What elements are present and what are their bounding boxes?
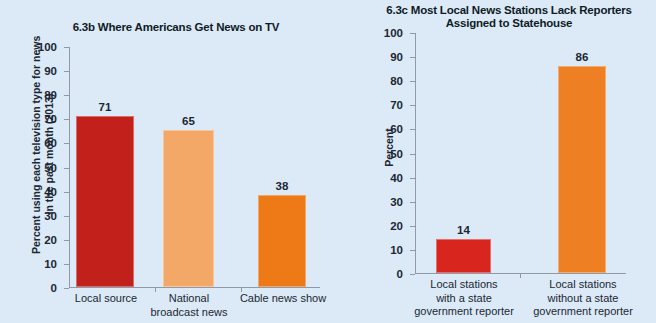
- plot-area-6-3b: Percent using each television type for n…: [69, 47, 320, 288]
- y-tick-0: 0: [64, 288, 69, 289]
- y-tick-c-70: 70: [410, 105, 415, 106]
- y-axis-line-6-3c: [415, 33, 416, 274]
- y-tick-c-0: 0: [410, 274, 415, 275]
- chart-title-6-3c-line-2: Assigned to Statehouse: [446, 17, 573, 29]
- bar-value-without-state-government-reporter: 86: [576, 51, 589, 63]
- y-tick-label-c-100: 100: [384, 27, 403, 39]
- y-tick-c-20: 20: [410, 226, 415, 227]
- y-tick-10: 10: [64, 264, 69, 265]
- y-tick-label-90: 90: [44, 65, 57, 77]
- chart-panel-6-3c: 6.3c Most Local News Stations Lack Repor…: [356, 0, 656, 323]
- bar-with-state-government-reporter[interactable]: 14 Local stations with a state governmen…: [436, 239, 491, 273]
- y-tick-50: 50: [64, 168, 69, 169]
- y-tick-c-60: 60: [410, 129, 415, 130]
- y-tick-90: 90: [64, 71, 69, 72]
- y-tick-label-60: 60: [44, 137, 57, 149]
- chart-title-6-3c: 6.3c Most Local News Stations Lack Repor…: [384, 4, 634, 30]
- y-tick-c-80: 80: [410, 81, 415, 82]
- y-tick-c-10: 10: [410, 250, 415, 251]
- y-tick-label-80: 80: [44, 89, 57, 101]
- y-tick-20: 20: [64, 240, 69, 241]
- y-tick-label-20: 20: [44, 234, 57, 246]
- y-tick-40: 40: [64, 192, 69, 193]
- y-tick-c-30: 30: [410, 202, 415, 203]
- chart-panel-6-3b: 6.3b Where Americans Get News on TV Perc…: [0, 0, 356, 323]
- y-tick-label-c-30: 30: [390, 196, 403, 208]
- x-category-label-cable-news-show: Cable news show: [226, 292, 341, 306]
- y-tick-label-c-40: 40: [390, 172, 403, 184]
- bar-cable-news-show[interactable]: 38 Cable news show: [258, 195, 306, 287]
- y-tick-label-c-80: 80: [390, 75, 403, 87]
- y-tick-label-100: 100: [38, 41, 57, 53]
- y-tick-label-30: 30: [44, 210, 57, 222]
- x-category-label-without-state-government-reporter: Local stations without a state governmen…: [516, 278, 651, 319]
- y-axis-label-6-3b: Percent using each television type for n…: [30, 54, 56, 254]
- x-category-label-with-state-government-reporter: Local stations with a state government r…: [399, 278, 529, 319]
- bar-national-broadcast-news[interactable]: 65 National broadcast news: [163, 130, 214, 287]
- chart-title-6-3b: 6.3b Where Americans Get News on TV: [26, 21, 326, 34]
- y-tick-label-c-10: 10: [390, 244, 403, 256]
- y-tick-c-100: 100: [410, 33, 415, 34]
- bar-value-local-source: 71: [99, 101, 112, 113]
- y-tick-label-c-50: 50: [390, 148, 403, 160]
- bar-value-national-broadcast-news: 65: [182, 115, 195, 127]
- y-axis-line-6-3b: [69, 47, 70, 288]
- plot-area-6-3c: Percent 0 10 20 30 40 50 60 70 80 90 100…: [415, 33, 626, 274]
- y-tick-c-40: 40: [410, 178, 415, 179]
- figure-root: 6.3b Where Americans Get News on TV Perc…: [0, 0, 656, 323]
- y-tick-label-c-70: 70: [390, 99, 403, 111]
- y-tick-30: 30: [64, 216, 69, 217]
- x-axis-line-6-3b: [69, 287, 320, 288]
- y-tick-60: 60: [64, 143, 69, 144]
- y-tick-label-40: 40: [44, 186, 57, 198]
- chart-title-6-3c-line-1: 6.3c Most Local News Stations Lack Repor…: [386, 4, 632, 16]
- bar-value-with-state-government-reporter: 14: [457, 224, 470, 236]
- y-tick-c-90: 90: [410, 57, 415, 58]
- y-tick-70: 70: [64, 119, 69, 120]
- y-tick-label-c-60: 60: [390, 123, 403, 135]
- bar-local-source[interactable]: 71 Local source: [76, 116, 134, 287]
- y-tick-80: 80: [64, 95, 69, 96]
- bar-value-cable-news-show: 38: [276, 180, 289, 192]
- y-tick-label-c-90: 90: [390, 51, 403, 63]
- y-tick-label-c-20: 20: [390, 220, 403, 232]
- bar-without-state-government-reporter[interactable]: 86 Local stations without a state govern…: [558, 66, 606, 273]
- y-tick-label-70: 70: [44, 113, 57, 125]
- y-tick-label-10: 10: [44, 258, 57, 270]
- y-tick-label-50: 50: [44, 162, 57, 174]
- y-tick-100: 100: [64, 47, 69, 48]
- y-tick-c-50: 50: [410, 154, 415, 155]
- y-axis-label-line-1: Percent using each television type for n…: [30, 36, 42, 254]
